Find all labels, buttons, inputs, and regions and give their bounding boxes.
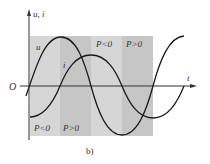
origin-label: O [9, 81, 16, 92]
x-axis-label: t [187, 73, 190, 83]
curve-label-u: u [36, 42, 41, 52]
y-axis-arrow-icon [27, 9, 31, 16]
power-waveform-diagram: u, i t O u i P<0 P>0 P<0 P>0 b) [0, 0, 210, 164]
y-axis-label: u, i [33, 9, 45, 19]
figure-caption: b) [86, 146, 94, 156]
region-4-label: P>0 [125, 39, 143, 49]
x-axis-arrow-icon [190, 84, 197, 88]
region-1-label: P<0 [33, 123, 51, 133]
region-3-label: P<0 [95, 39, 113, 49]
region-2-label: P>0 [62, 123, 80, 133]
